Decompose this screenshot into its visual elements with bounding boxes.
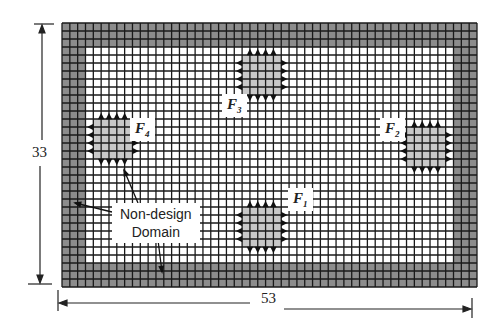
load-label-f4: F4 xyxy=(130,118,155,141)
load-label-f2: F2 xyxy=(380,118,405,141)
load-patch-f1 xyxy=(242,207,281,247)
load-patch-f3 xyxy=(242,55,281,95)
load-patch-f2 xyxy=(407,127,446,167)
width-dimension-label: 53 xyxy=(255,290,282,307)
non-design-label-line2: Domain xyxy=(120,223,192,241)
height-dimension-label: 33 xyxy=(26,144,53,161)
non-design-label-line1: Non-design xyxy=(120,205,192,223)
load-patch-f4 xyxy=(93,119,132,159)
non-design-domain-label: Non-design Domain xyxy=(112,203,200,243)
mesh-diagram xyxy=(0,0,497,335)
load-label-f3: F3 xyxy=(222,94,247,117)
load-label-f1: F1 xyxy=(288,188,313,211)
